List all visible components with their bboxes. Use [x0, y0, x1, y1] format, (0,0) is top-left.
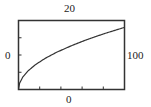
data-curve	[19, 27, 125, 89]
plot-frame	[19, 21, 125, 90]
plot-area	[0, 0, 151, 107]
axis-ticks	[19, 21, 125, 90]
